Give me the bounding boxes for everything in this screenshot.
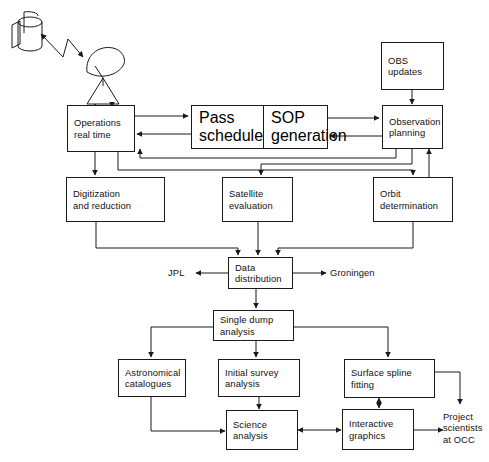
node-label-line2: fitting xyxy=(351,379,432,390)
node-label-line2: distribution xyxy=(235,273,290,284)
node-label-line2: evaluation xyxy=(229,200,290,211)
node-label-line1: Single dump xyxy=(220,314,291,325)
label-line1: Project xyxy=(443,411,483,422)
node-pass-schedule[interactable]: Pass schedule xyxy=(192,106,263,148)
label-groningen-text: Groningen xyxy=(330,267,375,278)
node-astronomical-catalogues[interactable]: Astronomical catalogues xyxy=(118,359,186,397)
label-project-scientists-at-occ: Project scientists at OCC xyxy=(443,411,483,445)
node-digitization-and-reduction[interactable]: Digitization and reduction xyxy=(66,177,165,222)
node-observation-planning[interactable]: Observation planning xyxy=(382,105,443,149)
node-label-line1: SOP xyxy=(271,109,347,127)
node-label-line1: Digitization xyxy=(73,188,162,199)
label-line3: at OCC xyxy=(443,434,483,445)
node-surface-spline-fitting[interactable]: Surface spline fitting xyxy=(344,359,435,398)
node-label-line2: generation xyxy=(271,127,347,145)
node-label-line2: schedule xyxy=(199,127,263,145)
node-data-distribution[interactable]: Data distribution xyxy=(228,257,293,289)
node-label-line1: Astronomical xyxy=(125,367,183,378)
node-label-line2: updates xyxy=(388,66,441,77)
node-label-line1: Operations xyxy=(74,117,132,128)
label-groningen: Groningen xyxy=(330,267,375,278)
label-line2: scientists xyxy=(443,422,483,433)
node-label-line2: graphics xyxy=(349,430,411,441)
node-obs-updates[interactable]: OBS updates xyxy=(381,42,444,90)
node-label-line1: Orbit xyxy=(380,188,450,199)
antenna-dish-icon xyxy=(87,48,125,104)
node-label-line2: determination xyxy=(380,200,450,211)
node-satellite-evaluation[interactable]: Satellite evaluation xyxy=(222,177,293,222)
label-jpl-text: JPL xyxy=(168,267,184,278)
node-label-line1: Satellite xyxy=(229,188,290,199)
node-label-line1: Surface spline xyxy=(351,367,432,378)
node-label-line1: Science xyxy=(233,419,295,430)
node-operations-real-time[interactable]: Operations real time xyxy=(67,105,135,152)
label-jpl: JPL xyxy=(168,267,184,278)
node-initial-survey-analysis[interactable]: Initial survey analysis xyxy=(218,359,300,397)
node-label-line1: OBS xyxy=(388,55,441,66)
node-sop-generation[interactable]: SOP generation xyxy=(263,106,347,148)
node-label-line1: Initial survey xyxy=(225,367,297,378)
node-label-line2: analysis xyxy=(220,326,291,337)
node-label-line1: Interactive xyxy=(349,418,411,429)
radio-signal-icon xyxy=(41,34,83,57)
node-science-analysis[interactable]: Science analysis xyxy=(226,410,298,450)
node-label-line1: Observation xyxy=(389,116,440,127)
satellite-icon xyxy=(12,12,42,51)
flow-diagram: Operations real time Pass schedule SOP g… xyxy=(0,0,489,462)
node-pass-schedule-sop-generation[interactable]: Pass schedule SOP generation xyxy=(191,105,328,149)
node-orbit-determination[interactable]: Orbit determination xyxy=(373,177,453,222)
node-interactive-graphics[interactable]: Interactive graphics xyxy=(342,409,414,450)
node-label-line1: Pass xyxy=(199,109,263,127)
node-label-line2: analysis xyxy=(233,430,295,441)
node-label-line2: catalogues xyxy=(125,378,183,389)
node-label-line2: planning xyxy=(389,127,440,138)
node-single-dump-analysis[interactable]: Single dump analysis xyxy=(213,310,294,341)
node-label-line2: analysis xyxy=(225,378,297,389)
node-label-line2: real time xyxy=(74,129,132,140)
node-label-line1: Data xyxy=(235,262,290,273)
node-label-line2: and reduction xyxy=(73,200,162,211)
